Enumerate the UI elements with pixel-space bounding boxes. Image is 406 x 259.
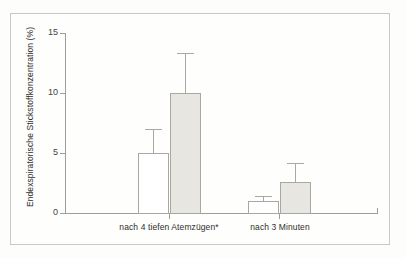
errorbar-cap-group0-grau xyxy=(177,53,194,54)
y-axis-line xyxy=(65,33,66,214)
errorbar-cap-group1-grau xyxy=(287,163,304,164)
y-tick-label-0: 0 xyxy=(18,208,58,217)
bar-group1-series-grau xyxy=(280,182,311,214)
bar-group0-series-weiss xyxy=(138,153,169,214)
x-tick-group-1 xyxy=(279,214,280,219)
y-tick-mark-15 xyxy=(60,33,66,34)
x-tick-axis-end xyxy=(377,208,378,214)
y-tick-mark-0 xyxy=(60,213,66,214)
y-tick-mark-10 xyxy=(60,93,66,94)
bar-group0-series-grau xyxy=(170,93,201,214)
y-tick-label-15: 15 xyxy=(18,28,58,37)
y-tick-label-5: 5 xyxy=(18,148,58,157)
x-category-label-1: nach 3 Minuten xyxy=(224,222,336,232)
errorbar-stem-group0-grau xyxy=(185,53,186,93)
y-axis-title: Endexspiratorische Stickstoffkonzentrati… xyxy=(25,17,35,217)
chart-plot-area: Endexspiratorische Stickstoffkonzentrati… xyxy=(0,0,406,259)
chart-figure: Endexspiratorische Stickstoffkonzentrati… xyxy=(0,0,406,259)
errorbar-stem-group1-grau xyxy=(295,163,296,182)
x-axis-line xyxy=(65,213,378,214)
errorbar-cap-group0-weiss xyxy=(145,129,162,130)
errorbar-stem-group0-weiss xyxy=(153,129,154,153)
x-category-label-0: nach 4 tiefen Atemzügen* xyxy=(104,222,234,232)
y-tick-label-10: 10 xyxy=(18,88,58,97)
y-tick-mark-5 xyxy=(60,153,66,154)
x-tick-group-0 xyxy=(169,214,170,219)
bar-group1-series-weiss xyxy=(248,201,279,214)
errorbar-cap-group1-weiss xyxy=(255,196,272,197)
